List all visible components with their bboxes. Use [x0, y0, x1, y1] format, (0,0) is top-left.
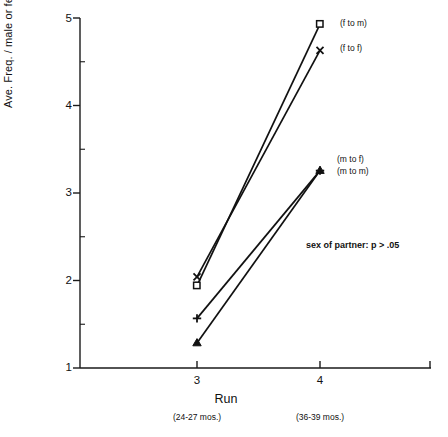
series-line-m-to-m [197, 171, 320, 343]
marker-x-f-to-f-run4 [317, 47, 324, 54]
line-chart-figure: Ave. Freq. / male or female partner 5 4 … [0, 0, 448, 437]
marker-square-f-to-m-run3 [194, 282, 200, 288]
marker-x-f-to-f-run3 [194, 273, 201, 280]
series-line-f-to-m [197, 24, 320, 286]
marker-square-f-to-m-run4 [317, 21, 323, 27]
plot-area [0, 0, 448, 437]
series-line-f-to-f [197, 50, 320, 277]
